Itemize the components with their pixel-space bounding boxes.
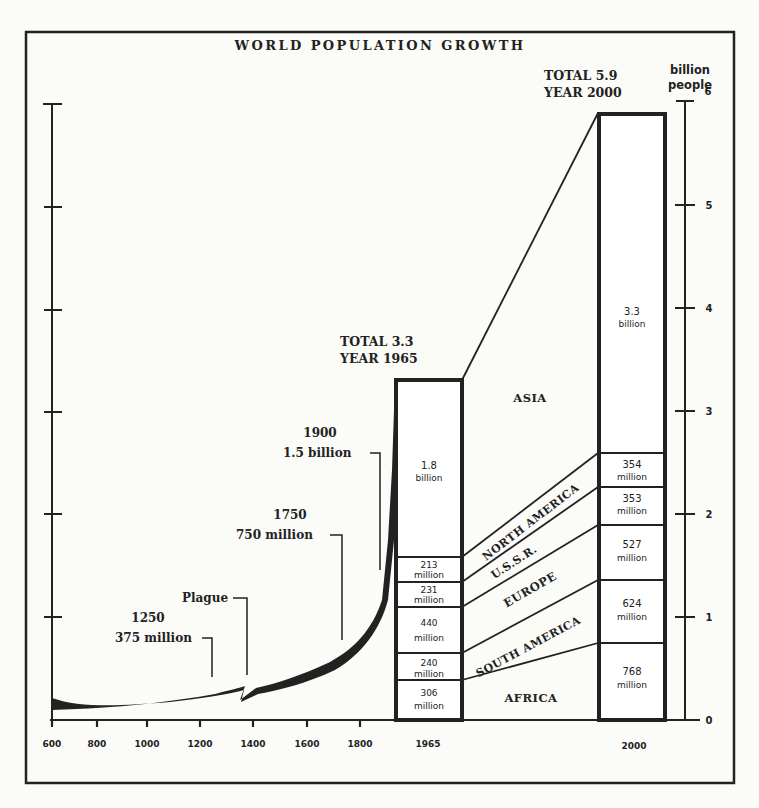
population-curve <box>52 380 401 710</box>
segment-unit-asia-1965: billion <box>416 473 443 483</box>
total-1965-label: TOTAL 3.3 <box>340 334 413 349</box>
annotation-1750-year: 1750 <box>273 508 306 522</box>
total-2000-label: TOTAL 5.9 <box>544 68 617 83</box>
x-tick-label: 1800 <box>347 739 372 749</box>
annotation-leaders <box>202 453 380 677</box>
right-y-axis <box>675 101 695 720</box>
annotation-1250-year: 1250 <box>131 611 164 625</box>
year-1965-label: YEAR 1965 <box>339 351 418 366</box>
x-tick-label: 1200 <box>187 739 212 749</box>
segment-value-europe-2000: 527 <box>622 539 641 550</box>
region-label-europe: EUROPE <box>501 569 559 611</box>
segment-value-europe-1965: 440 <box>420 618 437 628</box>
y-tick-label: 1 <box>706 612 713 623</box>
year-2000-label: YEAR 2000 <box>543 85 622 100</box>
y-tick-label: 3 <box>706 406 713 417</box>
region-label-africa: AFRICA <box>503 691 558 705</box>
segment-value-ussr-1965: 231 <box>420 585 437 595</box>
y-tick-label: 2 <box>706 509 713 520</box>
x-tick-label: 800 <box>88 739 107 749</box>
annotation-1250-value: 375 million <box>115 631 192 645</box>
x-tick-label: 1400 <box>240 739 265 749</box>
segment-value-africa-1965: 306 <box>420 688 437 698</box>
population-chart: WORLD POPULATION GROWTH 600 800 1000 120… <box>0 0 759 808</box>
region-label-asia: ASIA <box>512 391 547 405</box>
segment-unit-na-1965: million <box>414 570 444 580</box>
segment-value-na-1965: 213 <box>420 560 437 570</box>
x-tick-label: 1000 <box>134 739 159 749</box>
annotation-1900-value: 1.5 billion <box>283 446 352 460</box>
segment-value-africa-2000: 768 <box>622 666 641 677</box>
segment-value-sa-2000: 624 <box>622 598 641 609</box>
y-axis-unit-line2: people <box>668 78 712 92</box>
right-y-tick-labels: 0 1 2 3 4 5 6 <box>705 86 713 726</box>
segment-unit-asia-2000: billion <box>619 319 646 329</box>
segment-value-sa-1965: 240 <box>420 658 437 668</box>
segment-unit-europe-1965: million <box>414 633 444 643</box>
segment-unit-sa-2000: million <box>617 612 647 622</box>
bar-2000: 3.3 billion 354 million 353 million 527 … <box>599 114 665 720</box>
segment-unit-ussr-1965: million <box>414 595 444 605</box>
segment-unit-africa-1965: million <box>414 701 444 711</box>
segment-unit-sa-1965: million <box>414 669 444 679</box>
y-axis-unit-line1: billion <box>670 63 710 77</box>
left-y-axis <box>43 104 62 722</box>
x-tick-label: 600 <box>43 739 62 749</box>
y-tick-label: 4 <box>706 303 713 314</box>
segment-unit-na-2000: million <box>617 472 647 482</box>
y-tick-label: 5 <box>706 200 713 211</box>
segment-value-asia-1965: 1.8 <box>421 460 437 471</box>
x-tick-label: 1600 <box>294 739 319 749</box>
x-tick-labels: 600 800 1000 1200 1400 1600 1800 1965 20… <box>43 739 647 751</box>
chart-title: WORLD POPULATION GROWTH <box>234 38 526 53</box>
region-label-south-america: SOUTH AMERICA <box>474 614 583 680</box>
segment-unit-ussr-2000: million <box>617 506 647 516</box>
segment-value-na-2000: 354 <box>622 459 641 470</box>
segment-unit-africa-2000: million <box>617 680 647 690</box>
x-tick-label: 1965 <box>415 739 440 749</box>
bar-1965: 1.8 billion 213 million 231 million 440 … <box>396 380 462 720</box>
annotation-plague: Plague <box>182 591 228 605</box>
annotation-1750-value: 750 million <box>236 528 313 542</box>
y-tick-label: 0 <box>706 715 713 726</box>
segment-unit-europe-2000: million <box>617 553 647 563</box>
annotation-1900-year: 1900 <box>303 426 336 440</box>
segment-value-asia-2000: 3.3 <box>624 306 640 317</box>
x-tick-label: 2000 <box>621 741 646 751</box>
segment-value-ussr-2000: 353 <box>622 493 641 504</box>
